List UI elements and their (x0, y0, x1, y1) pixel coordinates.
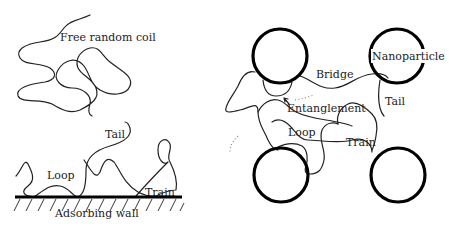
dotted-chain-lower (230, 136, 238, 152)
entangled-chain (226, 72, 278, 150)
tail-label-right: Tail (385, 95, 406, 108)
entanglement-label: Entanglement (287, 102, 366, 115)
bridge-label: Bridge (316, 68, 353, 81)
adsorbing-wall-label: Adsorbing wall (54, 207, 139, 220)
free-random-coil-label: Free random coil (60, 31, 156, 44)
nanoparticle-bottom-right (371, 148, 425, 202)
tail-label-left: Tail (105, 128, 126, 141)
train-label-right: Train (346, 136, 376, 149)
right-panel: Nanoparticle Bridge Tail Entanglement Lo… (226, 29, 445, 202)
dotted-chain-upper (295, 95, 314, 100)
tail-chain-right (379, 80, 385, 116)
loop-label-right: Loop (288, 126, 316, 139)
nanoparticle-bottom-left (254, 148, 308, 202)
nanoparticle-label: Nanoparticle (372, 50, 445, 63)
polymer-adsorption-diagram: Free random coil Tail Loop Train Adsorbi… (0, 0, 449, 228)
nanoparticle-top-left (253, 29, 307, 83)
left-panel: Free random coil Tail Loop Train Adsorbi… (14, 15, 184, 220)
loop-label-left: Loop (47, 169, 75, 182)
